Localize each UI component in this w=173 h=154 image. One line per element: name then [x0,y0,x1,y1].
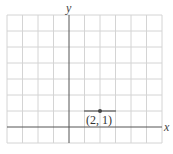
grid [7,15,162,143]
coordinate-plane: x y (2, 1) [0,0,173,154]
y-axis-label: y [65,1,72,15]
point-label: (2, 1) [86,113,112,127]
x-axis-label: x [163,120,170,134]
